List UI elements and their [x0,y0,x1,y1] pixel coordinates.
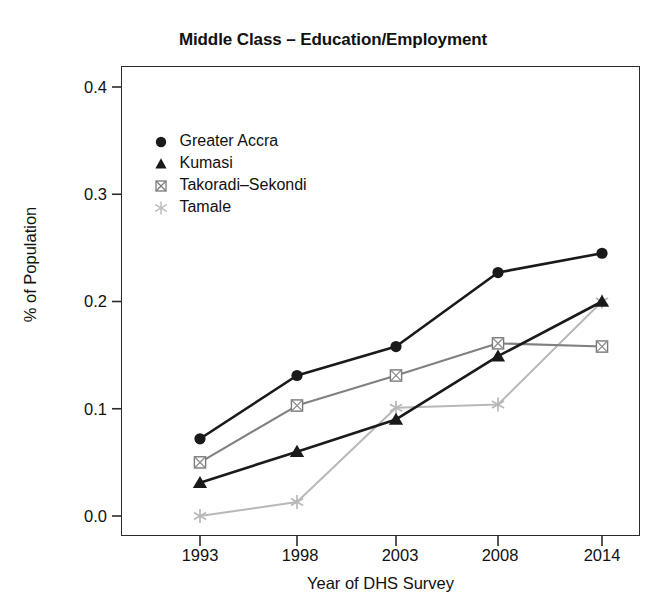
crossed-square-icon [152,174,172,196]
legend-label-tamale: Tamale [176,196,231,218]
data-point-greater-accra-1993 [194,433,205,444]
data-point-takoradi-sekondi-2008 [492,338,503,349]
data-series-group [193,248,609,523]
data-point-greater-accra-2003 [390,341,401,352]
legend-entry-greater-accra: Greater Accra [152,130,402,152]
data-point-takoradi-sekondi-1993 [194,457,205,468]
data-point-greater-accra-1998 [291,370,302,381]
asterisk-icon [152,196,172,218]
filled-triangle-icon [152,152,172,174]
legend-entry-tamale: Tamale [152,196,402,218]
data-point-greater-accra-2008 [492,267,503,278]
series-kumasi [193,295,609,488]
legend-label-takoradi-sekondi: Takoradi–Sekondi [176,174,306,196]
filled-circle-icon [152,130,172,152]
legend-entry-takoradi-sekondi: Takoradi–Sekondi [152,174,402,196]
legend-label-greater-accra: Greater Accra [176,130,278,152]
data-point-kumasi-2014 [595,295,609,307]
data-point-takoradi-sekondi-2003 [390,370,401,381]
data-point-greater-accra-2014 [596,248,607,259]
series-tamale [194,295,608,524]
data-point-takoradi-sekondi-1998 [291,400,302,411]
legend-entry-kumasi: Kumasi [152,152,402,174]
data-point-kumasi-2008 [491,349,505,361]
chart-canvas: Middle Class – Education/Employment 0.4 … [0,0,666,606]
data-point-kumasi-2003 [389,413,403,425]
series-layer [0,0,666,606]
legend: Greater Accra Kumasi Takoradi–Sekondi [152,130,402,218]
data-point-takoradi-sekondi-2014 [596,341,607,352]
series-line-kumasi [200,302,602,483]
legend-label-kumasi: Kumasi [176,152,232,174]
